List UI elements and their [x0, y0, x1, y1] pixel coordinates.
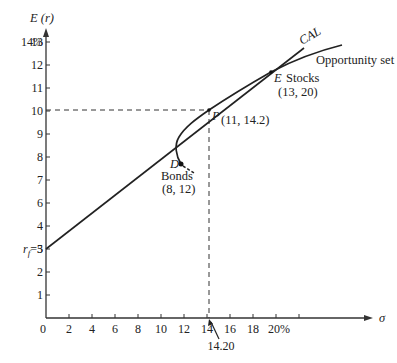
svg-text:18: 18 — [247, 322, 259, 336]
svg-text:8: 8 — [37, 150, 43, 164]
svg-text:1: 1 — [37, 288, 43, 302]
svg-text:4: 4 — [37, 219, 43, 233]
svg-text:9: 9 — [37, 127, 43, 141]
x-tick-labels: 2 4 6 8 10 12 14 16 18 20% — [66, 322, 290, 336]
svg-text:2: 2 — [37, 265, 43, 279]
svg-text:6: 6 — [37, 196, 43, 210]
cal-label: CAL — [297, 24, 324, 48]
point-d-name: Bonds — [161, 169, 193, 183]
cal-chart: 1 2 3 4 6 7 8 9 10 11 12 13 14% rf=5 2 4… — [0, 0, 397, 363]
y-tick-labels: 1 2 3 4 6 7 8 9 10 11 12 13 — [31, 35, 43, 302]
svg-text:20%: 20% — [268, 322, 290, 336]
svg-text:12: 12 — [178, 322, 190, 336]
point-p — [207, 108, 211, 112]
svg-text:6: 6 — [112, 322, 118, 336]
point-e-coords: (13, 20) — [278, 85, 318, 99]
svg-text:11: 11 — [31, 81, 43, 95]
y-axis-arrow-icon — [43, 28, 49, 37]
point-p-coords: (11, 14.2) — [221, 113, 270, 127]
svg-text:8: 8 — [135, 322, 141, 336]
origin-label: 0 — [40, 322, 46, 336]
point-e-name: Stocks — [286, 71, 319, 85]
opportunity-set-label: Opportunity set — [316, 53, 395, 67]
cal-line — [46, 48, 304, 249]
svg-text:16: 16 — [224, 322, 236, 336]
y-tick-label-14: 14% — [21, 35, 43, 49]
y-axis-title: E (r) — [29, 11, 54, 25]
x-axis-title: σ — [379, 311, 386, 325]
point-e — [269, 70, 273, 74]
point-e-letter: E — [273, 71, 282, 85]
svg-text:10: 10 — [155, 322, 167, 336]
x-axis-arrow-icon — [364, 315, 373, 321]
point-d — [179, 162, 184, 167]
svg-text:12: 12 — [31, 58, 43, 72]
svg-text:2: 2 — [66, 322, 72, 336]
svg-text:7: 7 — [37, 173, 43, 187]
point-d-coords: (8, 12) — [162, 182, 195, 196]
svg-text:4: 4 — [89, 322, 95, 336]
rf-label: rf=5 — [23, 242, 43, 258]
sigma-p-label: 14.20 — [208, 339, 235, 353]
svg-text:10: 10 — [31, 104, 43, 118]
point-p-letter: P — [211, 109, 220, 123]
